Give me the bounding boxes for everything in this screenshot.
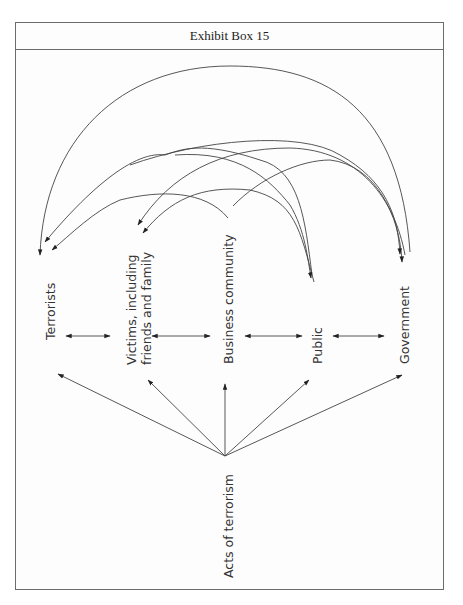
node-victims: Victims, including friends and family xyxy=(124,250,154,365)
node-public: Public xyxy=(310,327,325,364)
node-government: Government xyxy=(397,286,412,364)
stakeholder-diagram: Terrorists Victims, including friends an… xyxy=(0,0,463,605)
node-terrorists: Terrorists xyxy=(43,283,58,341)
arc-government-to-terrorists xyxy=(40,66,410,255)
arc-business-to-government xyxy=(233,160,402,262)
node-business: Business community xyxy=(221,234,236,364)
arrow-acts-to-government xyxy=(225,375,402,456)
node-acts-of-terrorism: Acts of terrorism xyxy=(221,474,236,578)
arc-victims-to-government xyxy=(130,141,400,254)
arc-public-to-terrorists xyxy=(45,148,312,275)
arc-terrorists-to-public xyxy=(175,154,311,278)
arrow-acts-to-victims xyxy=(148,380,225,456)
arrow-acts-to-public xyxy=(225,380,309,456)
arrow-acts-to-terrorists xyxy=(58,374,225,456)
